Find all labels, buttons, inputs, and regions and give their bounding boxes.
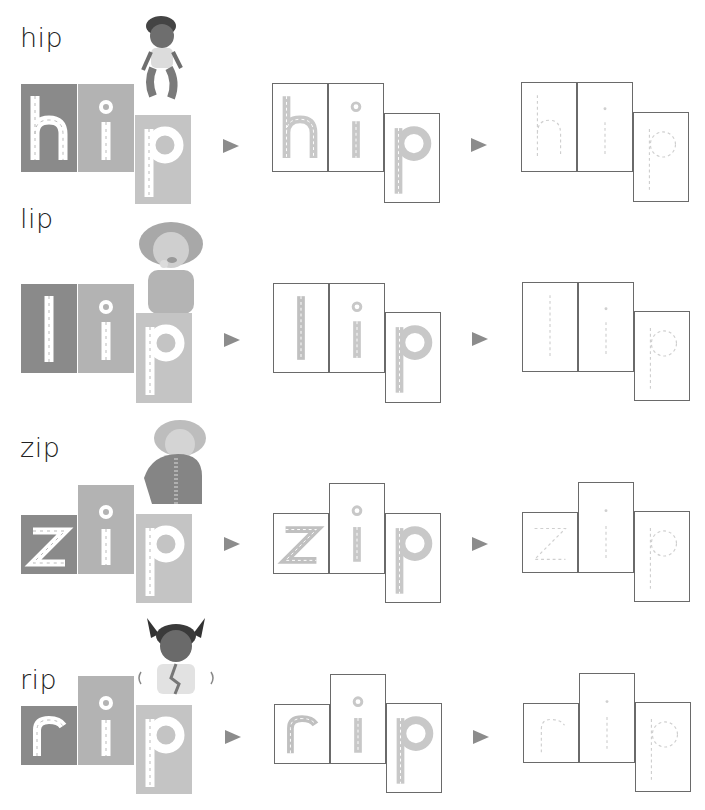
triangle-right-icon [473, 730, 489, 744]
word-label: zip [20, 432, 60, 463]
triangle-right-icon [472, 537, 488, 551]
girl-touching-lip-illustration [136, 218, 206, 314]
letter-tile-r [21, 706, 77, 765]
trace-tile-r [274, 704, 330, 764]
letter-tile-p [135, 115, 191, 204]
dotted-tile-i[interactable] [578, 282, 634, 372]
dotted-tile-r[interactable] [523, 703, 579, 763]
dotted-tile-i[interactable] [578, 482, 634, 573]
triangle-right-icon [223, 139, 239, 153]
trace-tile-p [384, 113, 440, 203]
trace-tile-i [330, 674, 386, 764]
triangle-right-icon [224, 333, 240, 347]
word-label: rip [20, 664, 57, 695]
letter-tile-i [78, 84, 134, 172]
girl-ripped-shirt-illustration [133, 612, 219, 700]
dotted-tile-h[interactable] [521, 82, 577, 172]
letter-tile-z [21, 515, 77, 574]
trace-tile-p [386, 703, 442, 793]
word-label: lip [20, 203, 54, 234]
triangle-right-icon [224, 537, 240, 551]
dotted-tile-i[interactable] [579, 673, 635, 763]
dotted-tile-i[interactable] [577, 82, 633, 172]
dotted-tile-l[interactable] [522, 282, 578, 372]
dotted-tile-p[interactable] [634, 511, 690, 602]
boy-squatting-illustration [135, 12, 195, 112]
trace-tile-p [385, 513, 441, 603]
trace-tile-p [385, 312, 441, 403]
letter-tile-p [136, 705, 192, 794]
dotted-tile-p[interactable] [635, 702, 691, 792]
dotted-tile-z[interactable] [522, 512, 578, 573]
dotted-tile-p[interactable] [634, 311, 690, 401]
letter-tile-p [136, 313, 192, 403]
trace-tile-i [329, 283, 385, 373]
triangle-right-icon [471, 138, 487, 152]
word-label: hip [20, 22, 63, 53]
trace-tile-z [273, 513, 329, 574]
dotted-tile-p[interactable] [633, 112, 689, 202]
letter-tile-i [78, 284, 134, 373]
child-zipping-jacket-illustration [138, 418, 210, 508]
triangle-right-icon [472, 332, 488, 346]
trace-tile-i [329, 483, 385, 574]
triangle-right-icon [225, 730, 241, 744]
letter-tile-p [136, 514, 192, 603]
trace-tile-i [328, 83, 384, 172]
letter-tile-i [78, 485, 134, 574]
letter-tile-h [21, 84, 77, 172]
letter-tile-l [21, 284, 77, 373]
trace-tile-l [273, 283, 329, 373]
letter-tile-i [78, 676, 134, 765]
trace-tile-h [272, 83, 328, 172]
